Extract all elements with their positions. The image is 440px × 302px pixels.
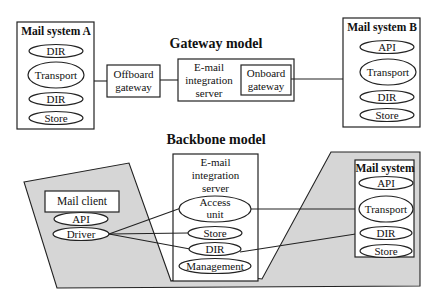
backbone-mail-system: Mail system API Transport DIR Store (355, 160, 415, 258)
offboard-gateway-label-2: gateway (115, 81, 152, 93)
backbone-server-label-3: server (202, 182, 229, 194)
backbone-server-label-1: E-mail (201, 156, 231, 168)
backbone-server-components: Access unit Store DIR Management (179, 196, 251, 274)
gateway-server-label-1: E-mail (194, 61, 224, 73)
mail-client-driver-label: Driver (67, 228, 96, 240)
mail-system-b-title: Mail system B (347, 21, 417, 34)
gateway-model-title: Gateway model (170, 36, 263, 51)
offboard-gateway-label-1: Offboard (113, 68, 154, 80)
onboard-gateway-label-1: Onboard (247, 67, 286, 79)
gateway-model: Gateway model Mail system A DIR Transpor… (17, 18, 420, 129)
mail-system-b-dir-label: DIR (378, 91, 398, 103)
mail-system-b-api-label: API (378, 41, 396, 53)
backbone-mail-system-title: Mail system (355, 162, 415, 175)
mail-system-a-transport-label: Transport (35, 69, 77, 81)
gateway-server-label-2: integration (185, 74, 233, 86)
backbone-mail-system-api-label: API (377, 177, 395, 189)
mail-system-a-title: Mail system A (21, 25, 91, 38)
backbone-mail-system-transport-label: Transport (365, 203, 407, 215)
mail-system-a: Mail system A DIR Transport DIR Store (17, 22, 94, 129)
mail-system-a-dir-2-label: DIR (47, 93, 67, 105)
management-label: Management (186, 260, 243, 272)
gateway-server-label-3: server (196, 87, 223, 99)
onboard-gateway-label-2: gateway (248, 80, 285, 92)
mail-client-api-label: API (72, 213, 90, 225)
backbone-mail-system-store-label: Store (374, 245, 397, 257)
mail-client-title: Mail client (57, 195, 108, 207)
access-unit-label-2: unit (206, 208, 223, 220)
backbone-server-dir-label: DIR (206, 243, 226, 255)
offboard-gateway: Offboard gateway (107, 65, 160, 97)
integration-models-diagram: Gateway model Mail system A DIR Transpor… (0, 0, 440, 302)
backbone-server-store-label: Store (203, 227, 226, 239)
mail-system-b: Mail system B API Transport DIR Store (343, 18, 420, 127)
backbone-model: Backbone model E-mail integration server… (24, 132, 420, 288)
mail-system-b-transport-label: Transport (367, 66, 409, 78)
backbone-server-label-2: integration (192, 169, 240, 181)
backbone-model-title: Backbone model (166, 132, 265, 147)
mail-system-a-store-label: Store (44, 112, 67, 124)
mail-system-b-store-label: Store (375, 109, 398, 121)
mail-system-a-dir-1-label: DIR (47, 45, 67, 57)
access-unit-label-1: Access (199, 196, 230, 208)
backbone-mail-system-dir-label: DIR (377, 227, 397, 239)
gateway-integration-server: E-mail integration server Onboard gatewa… (178, 59, 294, 101)
